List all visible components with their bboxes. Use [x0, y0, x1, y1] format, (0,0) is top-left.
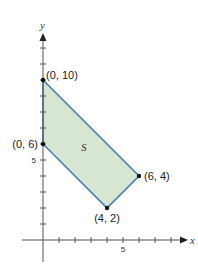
x-tick-label-5: 5	[121, 245, 126, 254]
vertex-label: (0, 10)	[46, 69, 78, 81]
vertex-label: (6, 4)	[144, 170, 170, 182]
vertex-6-4: (6, 4)	[137, 170, 170, 182]
coordinate-plane: 5 x 5 y S (0, 10) (0, 6)	[0, 0, 198, 277]
y-axis-arrow-icon	[40, 33, 47, 41]
vertex-label: (4, 2)	[94, 212, 120, 224]
vertex-0-10: (0, 10)	[41, 69, 78, 82]
y-tick-label-5: 5	[32, 156, 37, 165]
y-axis-label: y	[39, 19, 45, 31]
feasible-region-s	[43, 80, 139, 208]
vertex-label: (0, 6)	[12, 138, 38, 150]
x-axis-label: x	[189, 234, 195, 246]
region-label: S	[81, 141, 87, 153]
vertex-4-2: (4, 2)	[94, 206, 120, 224]
x-axis-arrow-icon	[180, 237, 188, 244]
x-axis: 5 x	[22, 234, 195, 254]
